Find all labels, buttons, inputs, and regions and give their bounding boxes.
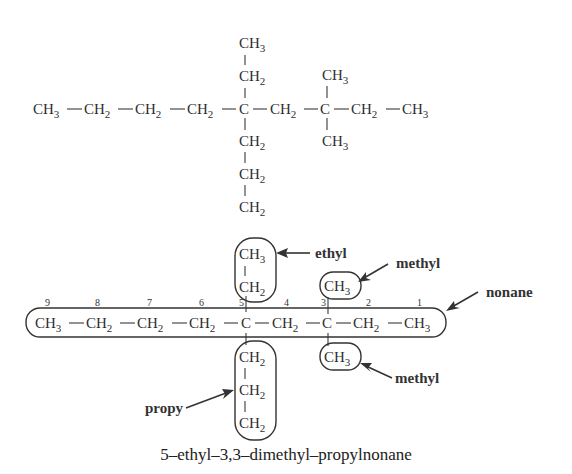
methyl-bottom-label: methyl — [395, 370, 439, 386]
methyl-bottom-arrow — [366, 366, 392, 378]
locant-8: 8 — [95, 297, 100, 308]
top-c3-up-ch3: CH3 — [322, 67, 349, 86]
locant-4: 4 — [284, 297, 289, 308]
top-chain-c3: C — [320, 101, 330, 117]
locant-1: 1 — [417, 297, 422, 308]
ethyl-label: ethyl — [315, 245, 347, 261]
chain-c6: CH2 — [189, 315, 215, 334]
top-c5-up-ch3: CH3 — [239, 35, 266, 54]
chain-c3: C — [322, 315, 332, 331]
top-chain-c6: CH2 — [187, 101, 213, 120]
structure-diagram: CH3 CH2 CH2 CH2 C CH2 C CH2 CH3 CH2 CH3 … — [0, 0, 572, 474]
top-chain-c2: CH2 — [351, 101, 377, 120]
chain-c9: CH3 — [35, 315, 62, 334]
top-chain-c9: CH3 — [33, 101, 60, 120]
locant-2: 2 — [366, 297, 371, 308]
locant-7: 7 — [147, 297, 152, 308]
top-chain-c1: CH3 — [402, 101, 429, 120]
top-chain-c8: CH2 — [84, 101, 110, 120]
ethyl-ch3: CH3 — [239, 246, 266, 265]
chain-c5: C — [241, 315, 251, 331]
chain-c4: CH2 — [272, 315, 298, 334]
propyl-arrow — [186, 393, 226, 408]
top-chain-c7: CH2 — [135, 101, 161, 120]
chain-c7: CH2 — [137, 315, 163, 334]
compound-name: 5–ethyl–3,3–dimethyl–propylnonane — [160, 445, 412, 464]
arrowhead-icon — [446, 301, 460, 311]
methyl-bottom-ch3: CH3 — [324, 349, 351, 368]
top-c5-down-ch2-3: CH2 — [239, 199, 265, 218]
top-c5-down-ch2-1: CH2 — [239, 133, 265, 152]
propyl-ch2-2: CH2 — [239, 382, 265, 401]
ethyl-ch2: CH2 — [239, 279, 265, 298]
locant-3: 3 — [321, 297, 326, 308]
top-c3-down-ch3: CH3 — [322, 133, 349, 152]
propyl-ch2-3: CH2 — [239, 415, 265, 434]
locant-6: 6 — [199, 297, 204, 308]
chain-c2: CH2 — [353, 315, 379, 334]
top-chain-c4: CH2 — [270, 101, 296, 120]
methyl-top-arrow — [364, 264, 388, 278]
chain-c8: CH2 — [86, 315, 112, 334]
top-chain-c5: C — [239, 101, 249, 117]
propyl-label: propy — [145, 400, 184, 416]
nonane-label: nonane — [486, 284, 533, 300]
methyl-top-ch3: CH3 — [324, 278, 351, 297]
top-structure: CH3 CH2 CH2 CH2 C CH2 C CH2 CH3 CH2 CH3 … — [33, 35, 429, 218]
methyl-top-label: methyl — [396, 255, 440, 271]
locant-9: 9 — [45, 297, 50, 308]
top-c5-up-ch2: CH2 — [239, 68, 265, 87]
bottom-structure: 9 8 7 6 5 4 3 2 1 CH3 CH2 CH2 CH2 C CH2 … — [26, 238, 533, 464]
nonane-arrow — [452, 292, 478, 307]
propyl-ch2-1: CH2 — [239, 349, 265, 368]
chain-c1: CH3 — [404, 315, 431, 334]
arrowhead-icon — [358, 272, 371, 282]
top-c5-down-ch2-2: CH2 — [239, 166, 265, 185]
